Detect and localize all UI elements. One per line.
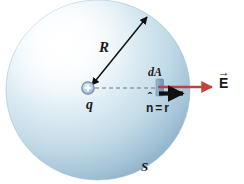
electric-field-symbol: E <box>219 76 228 90</box>
unit-vector-equation-label: n=r <box>146 102 169 114</box>
area-element-label: dA <box>148 66 162 78</box>
electric-field-label: E <box>219 76 228 90</box>
radial-unit-vector-symbol: r <box>164 102 169 114</box>
normal-unit-vector-symbol: n <box>146 102 153 114</box>
charge-label: q <box>86 98 93 112</box>
diagram-canvas <box>0 0 244 184</box>
surface-label: S <box>141 160 148 173</box>
equals-sign: = <box>153 101 164 115</box>
radius-label: R <box>99 40 109 55</box>
physics-diagram-gauss-law-sphere: R dA q n=r E S <box>0 0 244 184</box>
